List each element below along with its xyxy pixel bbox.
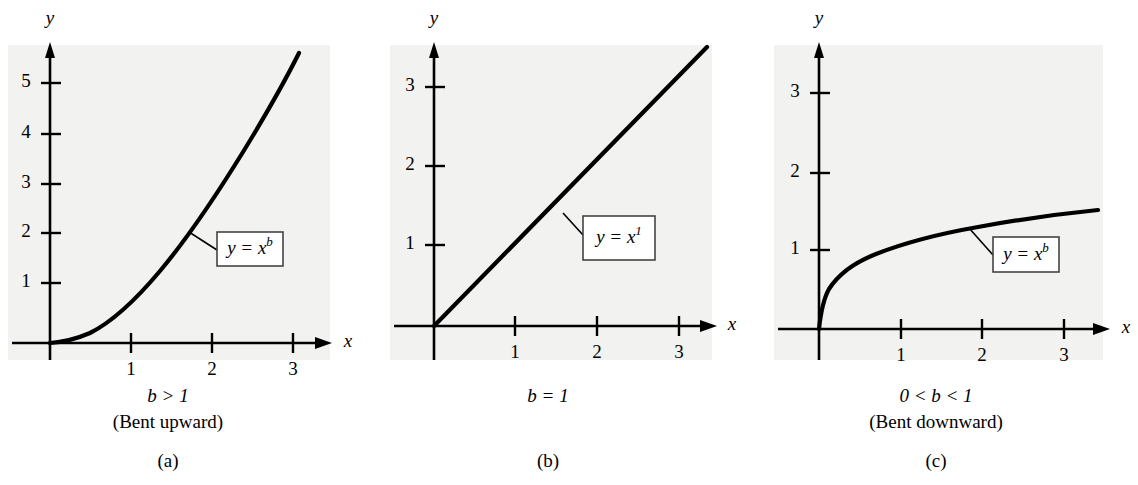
y-tick-label-2-b: 2 <box>405 153 415 174</box>
y-tick-label-2-c: 2 <box>790 160 800 181</box>
y-tick-label-3-a: 3 <box>21 171 31 192</box>
figure-container: 1 2 3 4 5 1 2 3 y x y = xb b > 1 (Bent u… <box>0 0 1138 485</box>
y-tick-label-4-a: 4 <box>21 121 31 142</box>
curve-label-b: y = x1 <box>594 223 642 247</box>
x-axis-label-c: x <box>1121 316 1131 337</box>
caption-line2-c: (Bent downward) <box>869 411 1003 433</box>
x-tick-label-2-b: 2 <box>592 341 602 362</box>
x-tick-label-3-a: 3 <box>288 358 298 379</box>
panel-letter-c: (c) <box>925 450 946 472</box>
y-tick-label-5-a: 5 <box>21 70 31 91</box>
x-tick-label-3-c: 3 <box>1059 344 1069 365</box>
x-tick-label-1-a: 1 <box>126 358 136 379</box>
caption-line1-c: 0 < b < 1 <box>899 385 972 406</box>
y-axis-label-c: y <box>813 7 824 28</box>
x-tick-label-1-c: 1 <box>896 344 906 365</box>
plot-background-a <box>8 45 330 360</box>
panel-letter-a: (a) <box>157 450 178 472</box>
panel-letter-b: (b) <box>537 450 559 472</box>
x-tick-label-2-c: 2 <box>977 344 987 365</box>
x-tick-label-2-a: 2 <box>207 358 217 379</box>
y-tick-label-3-c: 3 <box>790 80 800 101</box>
y-axis-label-a: y <box>44 7 55 28</box>
y-tick-label-3-b: 3 <box>405 74 415 95</box>
x-axis-label-b: x <box>727 313 737 334</box>
y-tick-label-1-c: 1 <box>790 237 800 258</box>
chart-panel-a: 1 2 3 4 5 1 2 3 y x y = xb b > 1 (Bent u… <box>0 0 380 485</box>
curve-label-c: y = xb <box>1001 240 1049 264</box>
caption-line2-a: (Bent upward) <box>113 411 223 433</box>
caption-line1-a: b > 1 <box>147 385 188 406</box>
chart-panel-b: 1 2 3 1 2 3 y x y = x1 b = 1 (b) <box>380 0 760 485</box>
y-axis-label-b: y <box>428 7 439 28</box>
x-tick-label-3-b: 3 <box>674 341 684 362</box>
curve-label-a: y = xb <box>225 234 273 258</box>
caption-line1-b: b = 1 <box>527 385 568 406</box>
x-tick-label-1-b: 1 <box>510 341 520 362</box>
y-tick-label-1-b: 1 <box>405 232 415 253</box>
x-axis-label-a: x <box>343 330 353 351</box>
chart-panel-c: 1 2 3 1 2 3 y x y = xb 0 < b < 1 (Bent d… <box>758 0 1138 485</box>
y-tick-label-2-a: 2 <box>21 220 31 241</box>
y-tick-label-1-a: 1 <box>21 270 31 291</box>
